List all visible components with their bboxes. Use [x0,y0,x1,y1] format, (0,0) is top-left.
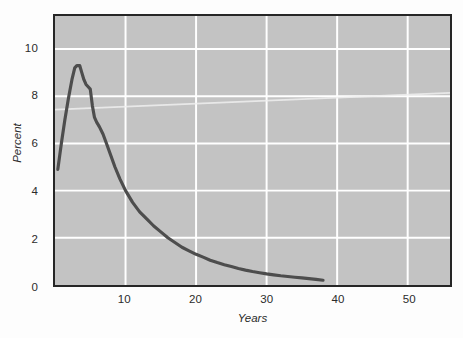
x-tick-label: 50 [403,293,416,305]
chart-figure: 0246810 1020304050 Percent Years [0,0,463,338]
y-axis-title: Percent [11,113,23,173]
x-tick-label: 40 [331,293,344,305]
x-tick-label: 20 [189,293,202,305]
x-tick-label: 30 [260,293,273,305]
x-axis-title: Years [53,312,452,324]
x-tick-label: 10 [118,293,131,305]
x-axis-tick-labels: 1020304050 [0,0,463,338]
